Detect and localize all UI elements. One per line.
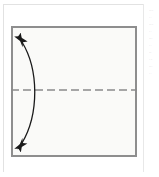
paper-shading: [13, 28, 135, 155]
origami-diagram: [0, 0, 159, 177]
origami-diagram-svg: [0, 0, 159, 177]
figure-page: ····· · · ····· · · ···· · · ··· · ·· ··…: [0, 0, 159, 177]
